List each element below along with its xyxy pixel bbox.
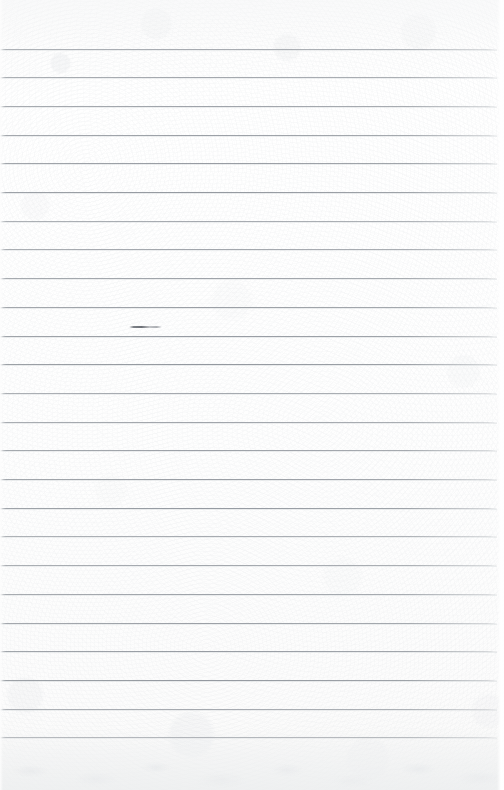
rule-line — [0, 364, 497, 365]
rule-line — [0, 709, 497, 710]
ink-smudge-mark — [129, 326, 162, 328]
rule-line — [0, 536, 497, 537]
rule-line — [0, 135, 497, 136]
rule-line — [0, 77, 497, 78]
rule-line — [0, 221, 497, 222]
rule-line — [0, 106, 497, 107]
rule-line — [0, 651, 497, 652]
rule-line — [0, 393, 497, 394]
rule-line — [0, 594, 497, 595]
rule-line — [0, 192, 497, 193]
rule-line — [0, 565, 497, 566]
notebook-page — [0, 0, 504, 790]
rule-line — [0, 307, 497, 308]
rule-line — [0, 623, 497, 624]
rule-line — [0, 422, 497, 423]
rule-line — [0, 278, 497, 279]
rule-line — [0, 508, 497, 509]
rule-line — [0, 680, 497, 681]
rule-line — [0, 49, 497, 50]
rule-line — [0, 163, 497, 164]
rule-line — [0, 479, 497, 480]
ruled-lines-layer — [0, 0, 504, 790]
rule-line — [0, 737, 497, 738]
rule-line — [0, 450, 497, 451]
rule-line — [0, 336, 497, 337]
rule-line — [0, 249, 497, 250]
